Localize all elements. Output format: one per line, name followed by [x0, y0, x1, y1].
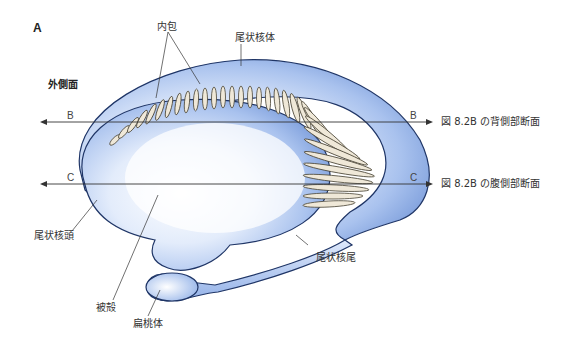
- plane-c-reference: 図 8.2B の腹側部断面: [441, 179, 540, 189]
- plane-c-left-arrowhead: [40, 181, 47, 187]
- plane-c-right-letter: C: [410, 173, 417, 183]
- basal-ganglia-illustration: [0, 0, 564, 343]
- plane-b-left-arrowhead: [40, 119, 47, 125]
- caudate-head-label: 尾状核頭: [34, 231, 74, 241]
- plane-b-right-arrowhead: [426, 119, 433, 125]
- amygdala-shape: [146, 273, 198, 301]
- figure-canvas: A 外側面 内包 尾状核体 尾状核頭 被殻 尾状核尾 扁桃体 B B 図 8.2…: [0, 0, 564, 343]
- amygdala-label: 扁桃体: [133, 319, 163, 329]
- panel-label: A: [33, 22, 42, 34]
- internal-capsule-label: 内包: [157, 22, 177, 32]
- plane-b-right-letter: B: [410, 111, 417, 121]
- plane-b-reference: 図 8.2B の背側部断面: [441, 117, 540, 127]
- caudate-body-label: 尾状核体: [235, 33, 275, 43]
- caudate-tail-label: 尾状核尾: [316, 253, 356, 263]
- putamen-label: 被殻: [96, 303, 116, 313]
- view-label: 外側面: [48, 80, 78, 90]
- plane-c-left-letter: C: [67, 173, 74, 183]
- plane-b-left-letter: B: [67, 111, 74, 121]
